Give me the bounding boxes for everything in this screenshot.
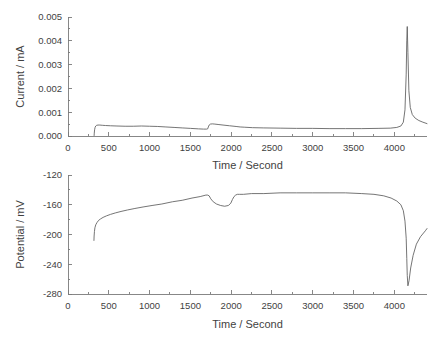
x-tick-label: 3000 (302, 300, 323, 311)
y-tick-label: 0.002 (38, 83, 62, 94)
current-plot-svg: 050010001500200025003000350040000.0000.0… (0, 0, 432, 170)
y-tick-label: 0.003 (38, 59, 62, 70)
x-tick-label: 0 (65, 300, 70, 311)
potential-plot-svg: 05001000150020002500300035004000-280-240… (0, 150, 432, 339)
y-tick-label: -280 (43, 288, 62, 299)
y-tick-label: -240 (43, 259, 62, 270)
x-tick-label: 3500 (343, 300, 364, 311)
y-tick-label: -160 (43, 199, 62, 210)
x-tick-label: 1500 (180, 300, 201, 311)
chart-current-vs-time: 050010001500200025003000350040000.0000.0… (0, 0, 432, 170)
x-tick-label: 500 (101, 300, 117, 311)
y-tick-label: 0.001 (38, 107, 62, 118)
figure-container: 050010001500200025003000350040000.0000.0… (0, 0, 432, 339)
axis-spines (68, 175, 427, 294)
x-tick-label: 1000 (139, 300, 160, 311)
y-axis-title: Current / mA (14, 45, 26, 108)
x-tick-label: 2500 (261, 300, 282, 311)
axis-spines (68, 17, 427, 136)
y-axis-title: Potential / mV (14, 200, 26, 269)
x-tick-label: 4000 (384, 300, 405, 311)
y-tick-label: -120 (43, 169, 62, 180)
y-tick-label: 0.000 (38, 130, 62, 141)
y-tick-label: 0.005 (38, 11, 62, 22)
x-tick-label: 2000 (221, 300, 242, 311)
chart-potential-vs-time: 05001000150020002500300035004000-280-240… (0, 150, 432, 339)
y-tick-label: -200 (43, 229, 62, 240)
data-series-line (94, 193, 427, 286)
y-tick-label: 0.004 (38, 35, 62, 46)
data-series-line (94, 27, 427, 136)
x-axis-title: Time / Second (212, 318, 283, 330)
